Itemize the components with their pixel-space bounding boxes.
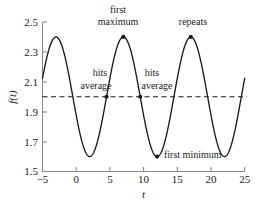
- y-axis-title: f(t): [6, 90, 19, 104]
- annotation-first-maximum-line1: first: [110, 4, 126, 15]
- marker-first-minimum: [155, 154, 159, 158]
- y-tick-label-1-9: 1.9: [24, 106, 38, 118]
- annotation-hits-average-2-line2: average: [141, 80, 173, 91]
- annotation-first-minimum: first minimum: [164, 149, 222, 160]
- annotation-repeats: repeats: [179, 16, 207, 27]
- marker-hits-average-2: [138, 95, 142, 99]
- chart-figure: 2.5 2.3 2.1 1.9 1.7 1.5 −5 0 5 10 15 20 …: [0, 0, 258, 202]
- y-tick-label-2-3: 2.3: [24, 46, 38, 58]
- marker-repeats: [189, 35, 193, 39]
- y-tick-label-2-5: 2.5: [24, 16, 38, 28]
- x-tick-label-25: 25: [239, 173, 251, 185]
- x-axis-ticks: [43, 167, 245, 172]
- annotation-hits-average-1-line2: average: [80, 80, 112, 91]
- marker-first-maximum: [121, 35, 125, 39]
- plot-area: 2.5 2.3 2.1 1.9 1.7 1.5 −5 0 5 10 15 20 …: [0, 0, 258, 202]
- x-tick-label-20: 20: [206, 173, 218, 185]
- x-tick-label-5: 5: [107, 173, 113, 185]
- annotation-first-maximum-line2: maximum: [98, 16, 139, 27]
- annotation-hits-average-2-line1: hits: [145, 67, 160, 78]
- x-axis-title: t: [142, 188, 146, 200]
- x-tick-label-10: 10: [138, 173, 150, 185]
- x-tick-label-15: 15: [172, 173, 184, 185]
- y-tick-label-1-7: 1.7: [24, 136, 38, 148]
- x-tick-label-minus5: −5: [37, 173, 49, 185]
- annotation-hits-average-1-line1: hits: [93, 67, 108, 78]
- marker-hits-average-1: [104, 95, 108, 99]
- y-tick-label-2-1: 2.1: [24, 76, 38, 88]
- x-tick-label-0: 0: [73, 173, 79, 185]
